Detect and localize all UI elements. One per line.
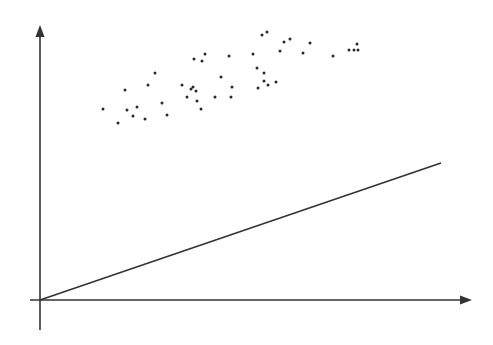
data-point (154, 72, 157, 75)
data-point (220, 76, 223, 79)
data-point (275, 81, 278, 84)
data-point (348, 49, 351, 52)
data-point (261, 34, 264, 37)
data-point (166, 114, 169, 117)
data-point (357, 49, 360, 52)
trend-line (40, 163, 441, 300)
data-point (147, 84, 150, 87)
diagram-canvas (0, 0, 493, 345)
data-point (124, 89, 127, 92)
data-point (196, 100, 199, 103)
data-point (161, 102, 164, 105)
data-point (252, 53, 255, 56)
scatter-points (102, 31, 360, 125)
data-point (309, 42, 312, 45)
scatter-diagram (0, 0, 493, 345)
data-point (228, 55, 231, 58)
axes (30, 25, 472, 330)
data-point (257, 87, 260, 90)
data-point (117, 122, 120, 125)
data-point (186, 96, 189, 99)
data-point (190, 88, 193, 91)
data-point (195, 90, 198, 93)
data-point (136, 106, 139, 109)
data-point (267, 84, 270, 87)
data-point (132, 115, 135, 118)
data-point (266, 31, 269, 34)
data-point (279, 50, 282, 53)
data-point (263, 72, 266, 75)
data-point (256, 67, 259, 70)
data-point (126, 109, 129, 112)
data-point (302, 52, 305, 55)
data-point (102, 108, 105, 111)
data-point (181, 84, 184, 87)
data-point (204, 53, 207, 56)
data-point (353, 49, 356, 52)
x-axis-arrow-icon (460, 296, 472, 305)
data-point (231, 86, 234, 89)
data-point (230, 96, 233, 99)
data-point (144, 118, 147, 121)
data-point (214, 96, 217, 99)
data-point (332, 55, 335, 58)
data-point (289, 38, 292, 41)
data-point (263, 80, 266, 83)
data-point (283, 41, 286, 44)
data-point (201, 60, 204, 63)
data-point (356, 43, 359, 46)
y-axis-arrow-icon (36, 25, 45, 37)
data-point (193, 58, 196, 61)
regression-line (40, 163, 441, 300)
data-point (200, 108, 203, 111)
